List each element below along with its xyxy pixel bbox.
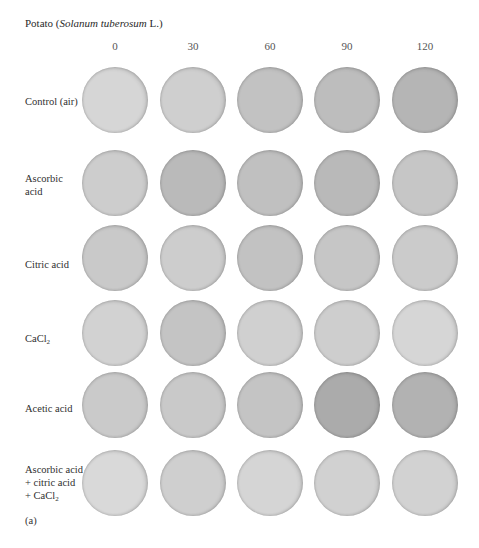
potato-slice-sample (392, 67, 458, 133)
row-label-combined: Ascorbic acid+ citric acid+ CaCl2 (25, 463, 83, 506)
potato-slice-sample (314, 150, 380, 216)
row-label-acetic: Acetic acid (25, 402, 73, 415)
potato-slice-sample (392, 150, 458, 216)
potato-slice-sample (392, 225, 458, 291)
row-label-control: Control (air) (25, 95, 78, 108)
potato-slice-sample (314, 67, 380, 133)
potato-slice-sample (237, 150, 303, 216)
potato-slice-sample (82, 300, 148, 366)
potato-slice-sample (82, 150, 148, 216)
potato-slice-sample (237, 300, 303, 366)
potato-slice-sample (237, 372, 303, 438)
potato-slice-sample (160, 225, 226, 291)
row-label-citric: Citric acid (25, 258, 69, 271)
potato-slice-sample (314, 450, 380, 516)
potato-slice-sample (314, 300, 380, 366)
potato-slice-sample (160, 450, 226, 516)
column-header-120: 120 (405, 40, 445, 52)
potato-slice-sample (392, 300, 458, 366)
title-suffix: L.) (147, 17, 163, 29)
potato-slice-sample (237, 450, 303, 516)
potato-slice-sample (314, 372, 380, 438)
potato-slice-sample (392, 450, 458, 516)
potato-slice-sample (82, 67, 148, 133)
potato-slice-sample (82, 225, 148, 291)
potato-slice-sample (160, 150, 226, 216)
potato-slice-sample (160, 67, 226, 133)
column-header-90: 90 (327, 40, 367, 52)
title-species: Solanum tuberosum (60, 17, 147, 29)
row-label-ascorbic: Ascorbicacid (25, 172, 63, 198)
potato-slice-sample (160, 300, 226, 366)
column-header-60: 60 (250, 40, 290, 52)
title-prefix: Potato ( (25, 17, 60, 29)
potato-slice-sample (82, 450, 148, 516)
column-header-30: 30 (173, 40, 213, 52)
row-label-cacl2: CaCl2 (25, 332, 50, 349)
figure-title: Potato (Solanum tuberosum L.) (25, 17, 163, 29)
potato-slice-sample (237, 67, 303, 133)
potato-slice-sample (82, 372, 148, 438)
column-header-0: 0 (95, 40, 135, 52)
potato-slice-sample (314, 225, 380, 291)
potato-slice-sample (160, 372, 226, 438)
potato-slice-sample (392, 372, 458, 438)
panel-label: (a) (25, 515, 37, 526)
potato-slice-sample (237, 225, 303, 291)
